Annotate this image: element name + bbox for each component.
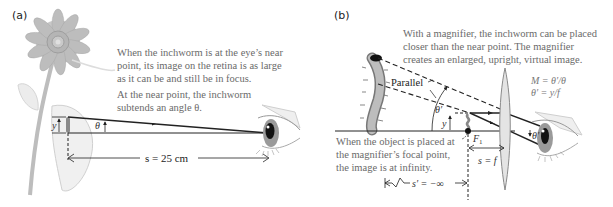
panel-a-caption-1: When the inchworm is at the eye’s near p…: [117, 47, 283, 84]
focal-point-label: F1: [472, 133, 483, 146]
svg-text:the magnifier’s focal point,: the magnifier’s focal point,: [336, 149, 450, 160]
panel-b-caption-top: With a magnifier, the inchworm can be pl…: [403, 28, 598, 65]
panel-a-height-label: y: [51, 120, 57, 131]
magnifier-diagram: (a): [0, 0, 613, 207]
svg-text:the image is at infinity.: the image is at infinity.: [336, 162, 432, 173]
panel-a-angle-label: θ: [95, 120, 100, 131]
magnifier-lens: [500, 68, 511, 190]
inchworm-virtual-image: [360, 55, 390, 131]
focal-point-marker: [465, 128, 471, 134]
formula-theta-prime: θ′ = y/f: [531, 87, 561, 98]
panel-b-angle-label: θ′: [435, 104, 443, 115]
panel-a-label: (a): [12, 9, 27, 22]
svg-text:At the near point, the inchwor: At the near point, the inchworm: [117, 89, 251, 100]
flower-illustration: [18, 9, 115, 195]
svg-text:subtends an angle θ.: subtends an angle θ.: [117, 102, 202, 113]
panel-b-caption-bottom: When the object is placed at the magnifi…: [336, 136, 455, 173]
eye-angle-label: θ′: [532, 130, 540, 141]
svg-text:creates an enlarged, upright,: creates an enlarged, upright, virtual im…: [403, 54, 582, 65]
svg-text:When the inchworm is at the ey: When the inchworm is at the eye’s near: [117, 47, 283, 58]
image-distance-label: s′ = −∞: [412, 178, 444, 189]
svg-text:With a magnifier, the inchworm: With a magnifier, the inchworm can be pl…: [403, 28, 598, 39]
panel-a: (a): [12, 9, 300, 195]
svg-text:point, its image on the retina: point, its image on the retina is as lar…: [117, 60, 282, 71]
panel-a-caption-2: At the near point, the inchworm subtends…: [117, 89, 251, 113]
svg-text:When the object is placed at: When the object is placed at: [336, 136, 455, 147]
focal-distance-label: s = f: [478, 155, 498, 166]
small-inchworm-icon: [467, 114, 469, 130]
panel-a-distance-label: s = 25 cm: [145, 152, 189, 164]
eye-illustration-a: [256, 105, 300, 156]
eye-illustration-b: [532, 112, 582, 162]
panel-b: (b) With a magnifier, the inchworm can b…: [334, 9, 598, 200]
parallel-label: Parallel: [391, 77, 423, 88]
formula-magnification: M = θ′/θ: [530, 75, 566, 86]
svg-text:closer than the near point. Th: closer than the near point. The magnifie…: [403, 41, 574, 52]
panel-b-label: (b): [334, 9, 350, 22]
inchworm-icon: [66, 117, 70, 133]
panel-b-height-label: y: [441, 118, 447, 129]
svg-text:as it can be and still be in f: as it can be and still be in focus.: [117, 73, 251, 84]
